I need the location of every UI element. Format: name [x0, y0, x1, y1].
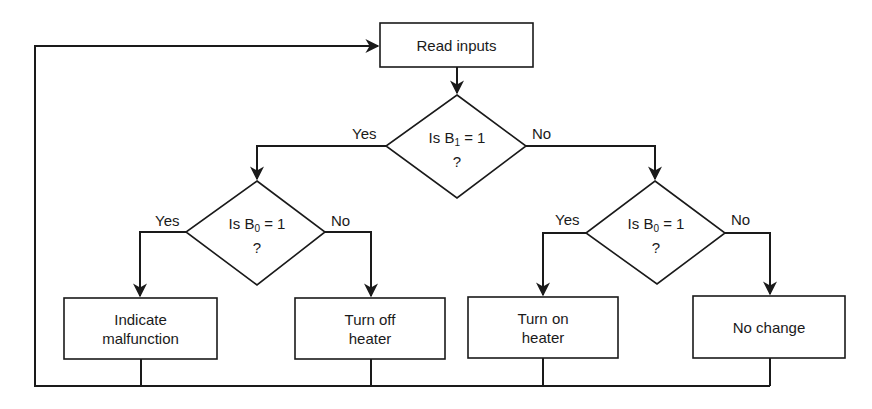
- b1-no-connector: [526, 146, 655, 179]
- b0-left-yes-label: Yes: [155, 211, 179, 230]
- b0-right-no-label: No: [731, 210, 750, 229]
- read-inputs-text: Read inputs: [416, 36, 496, 55]
- b0-left-yes-connector: [140, 232, 186, 296]
- b1-yes-label: Yes: [352, 124, 376, 143]
- b1-question-line: Is B1 = 1: [397, 128, 517, 152]
- b1-question: Is B1 = 1 ?: [397, 128, 517, 171]
- b1-yes-connector: [257, 146, 386, 179]
- turn-on-heater-line2: heater: [522, 328, 565, 347]
- b0-left-question-line: Is B0 = 1: [197, 214, 317, 238]
- b0-right-yes-connector: [543, 233, 586, 295]
- turn-off-heater-line1: Turn off: [345, 310, 396, 329]
- indicate-malfunction-line1: Indicate: [114, 310, 167, 329]
- no-change-text: No change: [733, 318, 806, 337]
- b0-left-no-connector: [325, 232, 371, 296]
- b0-right-yes-label: Yes: [555, 210, 579, 229]
- b1-question-mark: ?: [397, 152, 517, 171]
- b0-right-question: Is B0 = 1 ?: [596, 214, 716, 257]
- b1-no-label: No: [532, 124, 551, 143]
- turn-on-heater-label: Turn on heater: [468, 297, 618, 358]
- turn-off-heater-line2: heater: [349, 329, 392, 348]
- b0-left-question: Is B0 = 1 ?: [197, 214, 317, 257]
- b0-right-question-mark: ?: [596, 238, 716, 257]
- turn-off-heater-label: Turn off heater: [295, 298, 445, 359]
- indicate-malfunction-label: Indicate malfunction: [64, 298, 217, 359]
- b0-left-question-mark: ?: [197, 238, 317, 257]
- b0-right-no-connector: [725, 233, 770, 294]
- b0-right-question-line: Is B0 = 1: [596, 214, 716, 238]
- read-inputs-label: Read inputs: [380, 23, 533, 67]
- indicate-malfunction-line2: malfunction: [102, 329, 179, 348]
- b0-left-no-label: No: [331, 211, 350, 230]
- no-change-label: No change: [693, 296, 845, 358]
- turn-on-heater-line1: Turn on: [517, 309, 568, 328]
